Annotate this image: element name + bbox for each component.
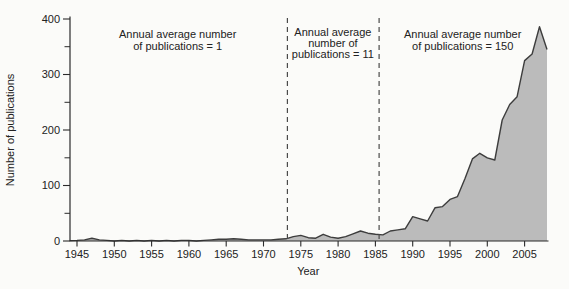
x-tick-label: 2005 <box>512 248 536 260</box>
x-axis-title: Year <box>297 265 320 277</box>
y-tick-label: 0 <box>54 235 60 247</box>
y-tick-label: 100 <box>42 179 60 191</box>
x-tick-label: 1985 <box>363 248 387 260</box>
y-axis-ticks: 0100200300400 <box>42 13 70 247</box>
x-tick-label: 1945 <box>65 248 89 260</box>
x-tick-label: 1955 <box>139 248 163 260</box>
y-tick-label: 200 <box>42 124 60 136</box>
y-tick-label: 300 <box>42 68 60 80</box>
x-tick-label: 1980 <box>326 248 350 260</box>
x-tick-label: 1995 <box>438 248 462 260</box>
x-tick-label: 1970 <box>251 248 275 260</box>
y-tick-label: 400 <box>42 13 60 25</box>
x-tick-label: 1950 <box>102 248 126 260</box>
x-tick-label: 1975 <box>289 248 313 260</box>
chart-canvas: 1945195019551960196519701975198019851990… <box>0 0 569 289</box>
y-axis-title: Number of publications <box>4 73 16 186</box>
x-tick-label: 1965 <box>214 248 238 260</box>
annotation-text: Annual averagenumber ofpublications = 11 <box>292 26 374 60</box>
annotations-group: Annual average numberof publications = 1… <box>119 26 522 60</box>
x-tick-label: 1960 <box>177 248 201 260</box>
x-tick-label: 2000 <box>475 248 499 260</box>
annotation-text: Annual average numberof publications = 1… <box>404 28 522 52</box>
annotation-text: Annual average numberof publications = 1 <box>119 28 237 52</box>
x-tick-label: 1990 <box>400 248 424 260</box>
x-axis-ticks: 1945195019551960196519701975198019851990… <box>65 241 537 260</box>
publications-over-time-chart: 1945195019551960196519701975198019851990… <box>0 0 569 289</box>
